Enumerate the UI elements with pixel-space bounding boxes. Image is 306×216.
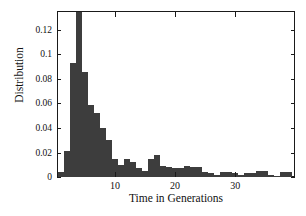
y-tick-mark xyxy=(57,103,61,104)
x-tick-label: 30 xyxy=(215,180,255,191)
y-tick-label: 0.12 xyxy=(2,25,52,35)
y-tick-mark xyxy=(57,30,61,31)
y-tick-label: 0 xyxy=(2,172,52,182)
y-tick-mark xyxy=(57,153,61,154)
x-tick-mark xyxy=(175,172,176,177)
x-tick-mark-top xyxy=(235,12,236,17)
y-tick-label: 0.1 xyxy=(2,49,52,59)
y-tick-mark xyxy=(57,79,61,80)
x-tick-label: 20 xyxy=(155,180,195,191)
y-tick-mark-right xyxy=(291,79,295,80)
y-tick-mark xyxy=(57,177,61,178)
y-axis-label: Distribution xyxy=(13,15,25,135)
y-tick-label: 0.02 xyxy=(2,148,52,158)
x-tick-mark xyxy=(115,172,116,177)
x-tick-mark xyxy=(235,172,236,177)
histogram-figure: 00.020.040.060.080.10.12 102030 Time in … xyxy=(0,0,306,216)
y-tick-mark xyxy=(57,54,61,55)
y-tick-label: 0.04 xyxy=(2,123,52,133)
y-tick-mark-right xyxy=(291,128,295,129)
y-tick-mark xyxy=(57,128,61,129)
y-tick-mark-right xyxy=(291,153,295,154)
y-tick-mark-right xyxy=(291,177,295,178)
histogram-bars xyxy=(58,12,294,177)
x-tick-mark-top xyxy=(115,12,116,17)
y-tick-label: 0.06 xyxy=(2,98,52,108)
x-tick-label: 10 xyxy=(95,180,135,191)
y-tick-label: 0.08 xyxy=(2,74,52,84)
x-axis-label: Time in Generations xyxy=(57,192,295,204)
x-tick-mark-top xyxy=(175,12,176,17)
y-tick-mark-right xyxy=(291,103,295,104)
y-tick-mark-right xyxy=(291,54,295,55)
y-tick-mark-right xyxy=(291,30,295,31)
